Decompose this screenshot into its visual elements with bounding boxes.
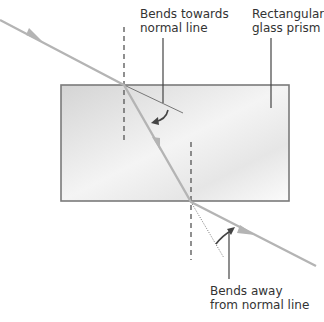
- label-glass-prism: Rectangular glass prism: [252, 7, 324, 35]
- label-glass-prism-line1: Rectangular: [252, 7, 324, 21]
- label-bends-away-line2: from normal line: [210, 298, 309, 312]
- label-bends-towards: Bends towards normal line: [140, 7, 229, 35]
- label-bends-away: Bends away from normal line: [210, 284, 309, 312]
- label-bends-towards-line2: normal line: [140, 21, 229, 35]
- refraction-diagram: [0, 0, 324, 322]
- glass-prism: [61, 85, 289, 201]
- ray-arrow-exit-icon: [237, 225, 255, 235]
- label-bends-towards-line1: Bends towards: [140, 7, 229, 21]
- label-glass-prism-line2: glass prism: [252, 21, 324, 35]
- bend-away-arrowhead-icon: [227, 227, 235, 235]
- label-bends-away-line1: Bends away: [210, 284, 309, 298]
